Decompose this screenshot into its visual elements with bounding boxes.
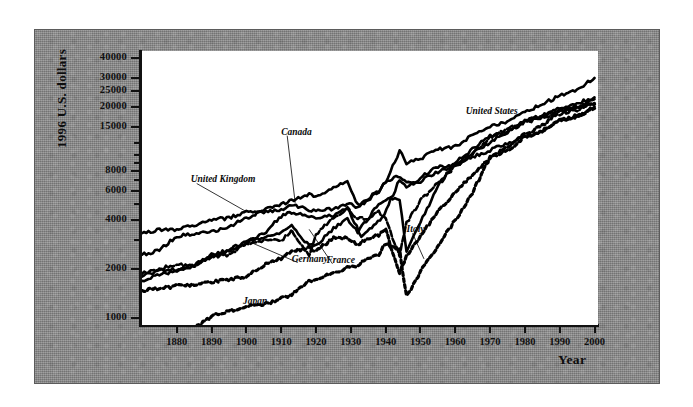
x-axis-title: Year: [558, 352, 586, 368]
leader-line: [197, 184, 247, 212]
series-line: [142, 97, 595, 276]
series-label: Canada: [281, 127, 312, 137]
y-tick-label: 20000: [0, 100, 127, 111]
series-label: Italy: [407, 224, 425, 234]
series-label: United Kingdom: [191, 174, 256, 184]
y-tick-label: 25000: [0, 84, 127, 95]
y-tick-label: 15000: [0, 120, 127, 131]
series-label: France: [326, 255, 355, 265]
y-tick-label: 30000: [0, 71, 127, 82]
y-tick-label: 1000: [0, 311, 127, 322]
y-tick-label: 40000: [0, 51, 127, 62]
x-tick-label: 2000: [569, 336, 621, 347]
series-label: Germany: [292, 254, 328, 264]
leader-line: [287, 136, 295, 203]
chart-figure: 1996 U.S. dollars Year 10002000400060008…: [0, 0, 693, 407]
series-line: [142, 107, 595, 234]
y-axis-title: 1996 U.S. dollars: [54, 49, 70, 148]
y-tick-label: 2000: [0, 262, 127, 273]
y-tick-label: 4000: [0, 213, 127, 224]
plot-area: United StatesCanadaUnited KingdomGermany…: [142, 51, 598, 325]
series-line: [142, 103, 595, 274]
series-label: United States: [466, 106, 518, 116]
series-lines: [142, 78, 595, 325]
series-label: Japan: [243, 296, 267, 306]
series-canvas: [142, 51, 598, 325]
y-tick-label: 6000: [0, 184, 127, 195]
y-tick-label: 8000: [0, 164, 127, 175]
